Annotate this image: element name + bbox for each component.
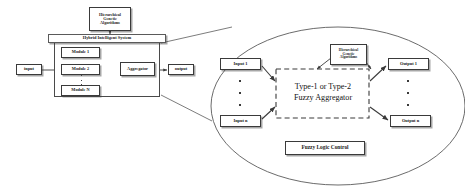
fuzzy-aggregator-label: Type-1 or Type-2 Fuzzy Aggregator — [278, 82, 368, 103]
module-box-2: Module 2 — [61, 64, 100, 75]
hybrid-intelligent-system-title: Hybrid Intelligent System — [48, 34, 166, 43]
diagram-vector-layer — [0, 0, 465, 195]
hga-magnified-line-3: Algorithms — [339, 56, 358, 60]
module-ellipsis-dots — [78, 75, 84, 85]
magnified-output-box-1: Output 1 — [388, 58, 429, 70]
magnified-input-box-n: Input n — [220, 115, 261, 127]
input-to-aggregator-arrows — [262, 66, 275, 119]
magnified-input-box-1: Input 1 — [220, 58, 261, 70]
aggregator-box: Aggregator — [120, 62, 155, 76]
input-box: input — [16, 64, 42, 75]
magnified-output-ellipsis-dots — [405, 80, 411, 106]
hga-line-3: Algorithms — [99, 21, 121, 25]
hga-box-outer: Hierarchical Genetic Algorithms — [89, 7, 131, 31]
aggregator-to-output-arrows — [370, 66, 388, 120]
magnified-input-ellipsis-dots — [237, 80, 243, 106]
diagram-canvas: Hierarchical Genetic Algorithms Hybrid I… — [0, 0, 465, 195]
fuzzy-aggregator-line-1: Type-1 or Type-2 — [278, 82, 368, 93]
module-box-1: Module 1 — [61, 47, 100, 58]
module-box-n: Module N — [61, 85, 100, 96]
magnified-output-box-n: Output n — [390, 115, 431, 127]
output-box: output — [168, 64, 194, 75]
hga-box-magnified: Hierarchical Genetic Algorithms — [330, 44, 367, 65]
fuzzy-logic-control-box: Fuzzy Logic Control — [285, 141, 365, 155]
fuzzy-aggregator-line-2: Fuzzy Aggregator — [278, 93, 368, 104]
